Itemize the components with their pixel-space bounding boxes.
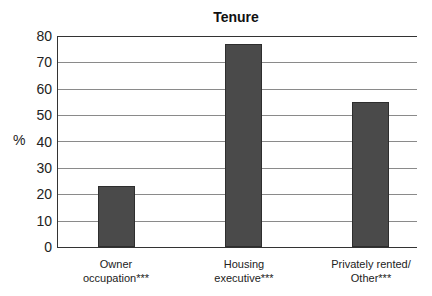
bar-owner-occupation [98,186,135,247]
plot-area [57,36,417,247]
x-label-line: executive*** [179,271,309,285]
y-tick-30: 30 [16,161,52,175]
gridline-80 [57,36,417,37]
y-tick-60: 60 [16,82,52,96]
y-tick-40: 40 [16,135,52,149]
bar-privately-rented-other [352,102,389,247]
y-axis [57,36,58,247]
y-tick-50: 50 [16,108,52,122]
x-label-line: occupation*** [51,271,181,285]
y-tick-70: 70 [16,55,52,69]
x-label-privately-rented-other: Privately rented/ Other*** [306,257,432,285]
x-label-line: Housing [179,257,309,271]
bar-housing-executive [225,44,262,247]
x-label-line: Owner [51,257,181,271]
chart-title: Tenure [0,9,432,25]
y-tick-80: 80 [16,29,52,43]
y-tick-20: 20 [16,187,52,201]
x-axis [57,247,417,248]
x-label-line: Privately rented/ [306,257,432,271]
y-tick-10: 10 [16,214,52,228]
x-label-line: Other*** [306,271,432,285]
x-label-housing-executive: Housing executive*** [179,257,309,285]
x-label-owner-occupation: Owner occupation*** [51,257,181,285]
y-tick-0: 0 [16,240,52,254]
